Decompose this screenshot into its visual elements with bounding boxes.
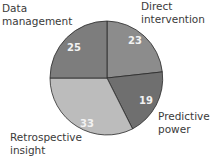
label-predictive-power: Predictive power: [158, 110, 210, 136]
label-line: management: [2, 15, 72, 28]
value-direct: 23: [128, 35, 142, 46]
label-retrospective-insight: Retrospective insight: [10, 131, 82, 157]
label-line: Data: [2, 2, 72, 15]
label-line: Direct: [141, 0, 205, 13]
label-line: intervention: [141, 13, 205, 26]
label-line: power: [158, 123, 210, 136]
label-direct-intervention: Direct intervention: [141, 0, 205, 26]
value-predictive: 19: [139, 95, 153, 106]
label-line: Predictive: [158, 110, 210, 123]
label-data-management: Data management: [2, 2, 72, 28]
value-data: 25: [67, 42, 81, 53]
value-retro: 33: [80, 118, 94, 129]
label-line: Retrospective: [10, 131, 82, 144]
slice-direct-intervention: [107, 21, 162, 78]
label-line: insight: [10, 144, 82, 157]
